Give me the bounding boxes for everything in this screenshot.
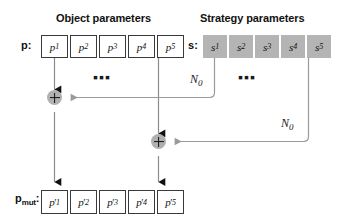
object-cell-1-sub: 1 [55,42,59,51]
mutated-cell-2[interactable]: p′2 [70,190,97,214]
object-ellipsis: ▪▪▪ [93,70,111,84]
mutated-cell-1-sub: 1 [56,198,60,207]
object-cell-4[interactable]: p4 [128,35,155,58]
strategy-cell-1-sub: 1 [215,42,219,51]
object-cell-2[interactable]: p2 [70,35,97,58]
wire-layer [0,0,337,222]
object-cell-5[interactable]: p5 [157,35,184,58]
mutation-diagram: Object parameters Strategy parameters p:… [0,0,337,222]
vector-label-p-text: p [21,39,28,51]
mutated-cell-4-sub: 4 [143,198,147,207]
mutated-cell-5[interactable]: p′5 [157,190,184,214]
object-cell-5-sub: 5 [171,42,175,51]
object-cell-2-sub: 2 [84,42,88,51]
object-cell-1[interactable]: p1 [41,35,68,58]
strategy-cell-4[interactable]: s4 [281,35,305,58]
vector-label-pmut-sub: mut [22,198,36,207]
mutated-cell-4[interactable]: p′4 [128,190,155,214]
strategy-cell-5[interactable]: s5 [307,35,331,58]
mutated-cell-3[interactable]: p′3 [99,190,126,214]
vector-label-s: s: [188,39,198,51]
vector-label-pmut-text: p [15,192,22,204]
vector-label-pmut: pmut: [15,192,39,207]
noise-label-2: N0 [281,116,294,132]
strategy-cell-4-sub: 4 [293,42,297,51]
noise-label-2-sub: 0 [289,122,294,132]
strategy-parameters-header: Strategy parameters [200,12,305,24]
vector-label-p: p: [21,39,31,51]
strategy-ellipsis: ▪▪▪ [238,70,256,84]
add-node-2[interactable] [151,134,166,149]
strategy-cell-3[interactable]: s3 [255,35,279,58]
mutated-cell-1[interactable]: p′1 [41,190,68,214]
strategy-cell-3-sub: 3 [267,42,271,51]
strategy-cell-2[interactable]: s2 [229,35,253,58]
noise-label-2-base: N [281,116,289,130]
vector-label-pmut-colon: : [36,192,40,204]
object-cell-3[interactable]: p3 [99,35,126,58]
object-parameters-header: Object parameters [56,12,151,24]
object-cell-4-sub: 4 [142,42,146,51]
strategy-cell-1[interactable]: s1 [203,35,227,58]
mutated-cell-5-sub: 5 [172,198,176,207]
object-cell-3-sub: 3 [113,42,117,51]
noise-label-1-sub: 0 [198,78,203,88]
noise-label-1-base: N [190,72,198,86]
strategy-cell-2-sub: 2 [241,42,245,51]
vector-label-s-colon: : [194,39,198,51]
mutated-cell-2-sub: 2 [85,198,89,207]
strategy-cell-5-sub: 5 [319,42,323,51]
add-node-1[interactable] [47,90,62,105]
noise-label-1: N0 [190,72,203,88]
vector-label-p-colon: : [28,39,32,51]
mutated-cell-3-sub: 3 [114,198,118,207]
